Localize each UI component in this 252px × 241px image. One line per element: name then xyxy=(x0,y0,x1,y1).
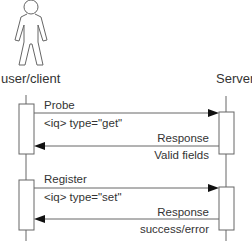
register-response-label: Response xyxy=(157,205,209,219)
client-activation-2 xyxy=(19,180,34,230)
server-activation-1 xyxy=(219,112,234,154)
arrowhead-right-icon xyxy=(208,109,219,117)
actor-icon xyxy=(15,0,47,65)
server-actor-label: Server xyxy=(216,72,252,86)
probe-response-detail: Valid fields xyxy=(154,148,209,162)
arrowhead-left-icon xyxy=(34,142,45,150)
server-activation-2 xyxy=(219,187,234,230)
probe-detail: <iq> type="get" xyxy=(44,116,122,130)
register-detail: <iq> type="set" xyxy=(44,190,122,204)
client-actor-label: user/client xyxy=(1,72,60,86)
register-response-detail: success/error xyxy=(140,222,209,236)
arrowhead-left-icon xyxy=(34,215,45,223)
probe-response-label: Response xyxy=(157,131,209,145)
probe-label: Probe xyxy=(44,98,75,112)
arrowhead-right-icon xyxy=(208,184,219,192)
client-activation-1 xyxy=(19,104,34,154)
register-label: Register xyxy=(44,172,87,186)
sequence-diagram xyxy=(0,0,252,241)
